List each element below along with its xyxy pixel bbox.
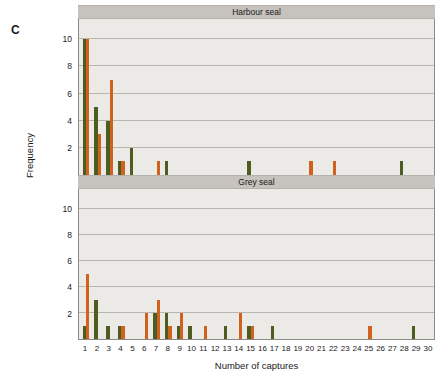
y-tick-label-8: 8 [46,61,72,71]
y-ticks-grey: 246810 [46,189,72,340]
y-tick-label-6: 6 [46,89,72,99]
bar-grey-seal-orange-4 [121,326,124,339]
panel-harbour-seal: Harbour seal [78,5,435,175]
bar-harbour-seal-orange-2 [98,134,101,175]
x-axis-title: Number of captures [78,360,435,371]
bar-grey-seal-orange-7 [157,300,160,339]
y-tick-label-2: 2 [46,309,72,319]
bar-grey-seal-orange-25 [368,326,371,339]
bar-grey-seal-green-13 [224,326,227,339]
y-axis-title: Frequency [24,96,35,216]
gridline-y-10 [79,38,434,39]
bar-grey-seal-green-2 [94,300,97,339]
y-tick-label-6: 6 [46,256,72,266]
bar-harbour-seal-orange-22 [333,161,336,175]
bar-grey-seal-orange-15 [251,326,254,339]
bar-harbour-seal-green-28 [400,161,403,175]
gridline-y-4 [79,286,434,287]
bar-grey-seal-green-29 [412,326,415,339]
y-tick-label-2: 2 [46,143,72,153]
gridline-y-10 [79,208,434,209]
panel-letter: C [11,24,20,36]
gridline-y-8 [79,234,434,235]
y-tick-label-10: 10 [46,204,72,214]
y-ticks-harbour: 246810 [46,19,72,175]
bar-grey-seal-orange-1 [86,274,89,339]
bar-harbour-seal-orange-1 [86,39,89,175]
figure-panel-c: C Frequency Harbour seal 246810 Grey sea… [0,0,439,375]
panel-title-harbour: Harbour seal [78,5,435,19]
panel-grey-seal: Grey seal [78,175,435,341]
y-tick-label-10: 10 [46,34,72,44]
bar-grey-seal-orange-6 [145,313,148,339]
bar-grey-seal-orange-11 [204,326,207,339]
bar-grey-seal-green-10 [188,326,191,339]
bar-harbour-seal-orange-7 [157,161,160,175]
bar-harbour-seal-green-5 [130,148,133,175]
bar-harbour-seal-green-8 [165,161,168,175]
gridline-y-2 [79,312,434,313]
gridline-y-4 [79,120,434,121]
x-tick-label-30: 30 [420,343,436,355]
panel-title-grey: Grey seal [78,175,435,189]
plot-area-grey [78,189,435,340]
bar-harbour-seal-orange-20 [309,161,312,175]
gridline-y-6 [79,93,434,94]
bar-harbour-seal-orange-4 [121,161,124,175]
plot-area-harbour [78,19,435,175]
x-axis-tick-labels: 1234567891011121314151617181920212223242… [78,343,435,355]
bar-grey-seal-green-17 [271,326,274,339]
bar-grey-seal-orange-9 [180,313,183,339]
bar-harbour-seal-green-15 [247,161,250,175]
y-tick-label-4: 4 [46,282,72,292]
bar-harbour-seal-orange-3 [110,80,113,175]
y-tick-label-8: 8 [46,230,72,240]
bar-grey-seal-green-3 [106,326,109,339]
bar-grey-seal-orange-8 [168,326,171,339]
y-tick-label-4: 4 [46,116,72,126]
bar-grey-seal-orange-14 [239,313,242,339]
gridline-y-8 [79,65,434,66]
gridline-y-6 [79,260,434,261]
